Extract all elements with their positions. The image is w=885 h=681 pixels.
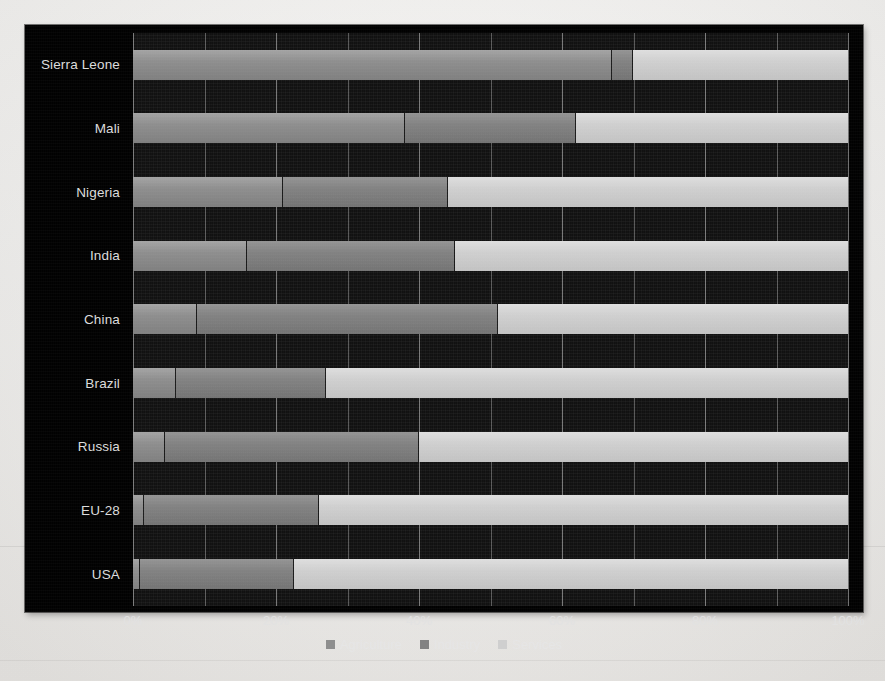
bar-segment-agriculture[interactable]	[133, 177, 283, 207]
bar-segment-industry[interactable]	[405, 113, 577, 143]
stacked-bar	[133, 50, 848, 80]
legend-item-industry[interactable]: Industry	[420, 637, 480, 652]
y-axis-label-usa: USA	[92, 542, 120, 606]
bar-row[interactable]	[133, 224, 848, 288]
plot-area	[133, 33, 848, 606]
stacked-bar	[133, 241, 848, 271]
bar-row[interactable]	[133, 288, 848, 352]
bar-segment-agriculture[interactable]	[133, 304, 197, 334]
bar-row[interactable]	[133, 160, 848, 224]
bar-segment-industry[interactable]	[140, 559, 294, 589]
bar-row[interactable]	[133, 97, 848, 161]
bar-segment-industry[interactable]	[144, 495, 319, 525]
bar-segment-services[interactable]	[576, 113, 848, 143]
legend-label: Industry	[434, 637, 480, 652]
y-axis-category-labels: Sierra LeoneMaliNigeriaIndiaChinaBrazilR…	[25, 33, 128, 606]
bar-segment-services[interactable]	[448, 177, 848, 207]
bar-segment-services[interactable]	[419, 432, 848, 462]
page-scanline	[0, 660, 885, 661]
bar-segment-agriculture[interactable]	[133, 432, 165, 462]
y-axis-label-eu-28: EU-28	[81, 479, 120, 543]
bar-row[interactable]	[133, 415, 848, 479]
legend-item-agriculture[interactable]: Agriculture	[326, 637, 402, 652]
bar-segment-industry[interactable]	[165, 432, 419, 462]
legend-label: Agriculture	[340, 637, 402, 652]
legend-swatch-icon	[420, 640, 429, 649]
bar-segment-agriculture[interactable]	[133, 241, 247, 271]
gridline	[848, 33, 849, 606]
bar-segment-agriculture[interactable]	[133, 113, 405, 143]
bar-segment-services[interactable]	[294, 559, 848, 589]
bar-segment-agriculture[interactable]	[133, 495, 144, 525]
bar-segment-services[interactable]	[498, 304, 848, 334]
chart-figure: Sierra LeoneMaliNigeriaIndiaChinaBrazilR…	[25, 25, 863, 612]
bar-row[interactable]	[133, 33, 848, 97]
bar-row[interactable]	[133, 351, 848, 415]
bar-segment-agriculture[interactable]	[133, 50, 612, 80]
stacked-bar	[133, 304, 848, 334]
legend-swatch-icon	[498, 640, 507, 649]
y-axis-label-sierra-leone: Sierra Leone	[41, 33, 120, 97]
bar-segment-services[interactable]	[319, 495, 848, 525]
chart-legend: AgricultureIndustryServices	[25, 637, 863, 652]
legend-label: Services	[512, 637, 562, 652]
x-axis-tick-labels: 0%20%40%60%80%100%	[133, 613, 848, 633]
stacked-bar	[133, 559, 848, 589]
stacked-bar	[133, 177, 848, 207]
stacked-bar	[133, 113, 848, 143]
x-axis-tick-20: 20%	[263, 613, 289, 628]
bar-segment-services[interactable]	[326, 368, 848, 398]
legend-swatch-icon	[326, 640, 335, 649]
y-axis-label-mali: Mali	[95, 97, 120, 161]
stacked-bar	[133, 432, 848, 462]
x-axis-tick-80: 80%	[692, 613, 718, 628]
bar-segment-industry[interactable]	[247, 241, 454, 271]
bar-segment-industry[interactable]	[176, 368, 326, 398]
bar-segment-industry[interactable]	[612, 50, 633, 80]
x-axis-tick-100: 100%	[831, 613, 864, 628]
x-axis-tick-60: 60%	[549, 613, 575, 628]
bar-segment-services[interactable]	[455, 241, 848, 271]
bar-row[interactable]	[133, 542, 848, 606]
bar-segment-agriculture[interactable]	[133, 368, 176, 398]
bar-segment-industry[interactable]	[197, 304, 497, 334]
bar-segment-industry[interactable]	[283, 177, 447, 207]
stacked-bar	[133, 495, 848, 525]
y-axis-label-china: China	[84, 288, 120, 352]
y-axis-label-nigeria: Nigeria	[76, 160, 120, 224]
y-axis-label-india: India	[90, 224, 120, 288]
legend-item-services[interactable]: Services	[498, 637, 562, 652]
stacked-bar	[133, 368, 848, 398]
bar-segment-services[interactable]	[633, 50, 848, 80]
y-axis-label-russia: Russia	[78, 415, 120, 479]
x-axis-tick-0: 0%	[124, 613, 143, 628]
x-axis-tick-40: 40%	[406, 613, 432, 628]
bar-segment-agriculture[interactable]	[133, 559, 140, 589]
y-axis-label-brazil: Brazil	[85, 351, 120, 415]
bar-row[interactable]	[133, 479, 848, 543]
